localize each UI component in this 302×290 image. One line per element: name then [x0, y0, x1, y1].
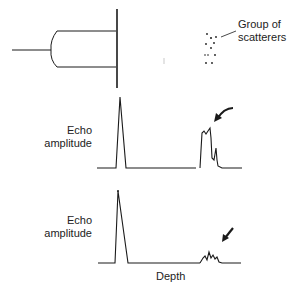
scatterers-label-line2: scatterers [238, 31, 286, 44]
trace2-ylabel: Echo amplitude [36, 214, 92, 240]
scatterer-dots [204, 33, 217, 64]
trace2-ylabel-line1: Echo [36, 214, 92, 227]
trace1-ylabel-line2: amplitude [36, 137, 92, 150]
scatterers-label: Group of scatterers [238, 18, 286, 44]
depth-xlabel: Depth [156, 270, 185, 283]
trace1-ylabel: Echo amplitude [36, 124, 92, 150]
trace2-ylabel-line2: amplitude [36, 227, 92, 240]
scatterers-label-line1: Group of [238, 18, 286, 31]
echo-trace-2 [98, 191, 241, 263]
echo-trace-1 [97, 97, 242, 168]
transducer-icon [12, 9, 117, 88]
peak-dot [117, 190, 119, 192]
trace1-ylabel-line1: Echo [36, 124, 92, 137]
scatterers-leader-line [221, 31, 236, 37]
